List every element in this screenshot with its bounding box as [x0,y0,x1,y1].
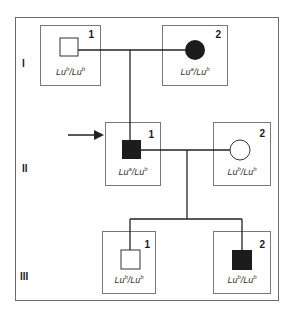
proband-arrow-icon [68,130,104,140]
male-unaffected-symbol-i-1 [60,38,78,56]
male-affected-symbol-ii-1 [122,140,141,159]
female-unaffected-symbol-ii-2 [230,140,250,160]
male-affected-symbol-iii-2 [232,250,252,270]
female-affected-symbol-i-2 [185,40,205,60]
male-unaffected-symbol-iii-1 [121,250,140,269]
pedigree-lines [0,0,289,320]
